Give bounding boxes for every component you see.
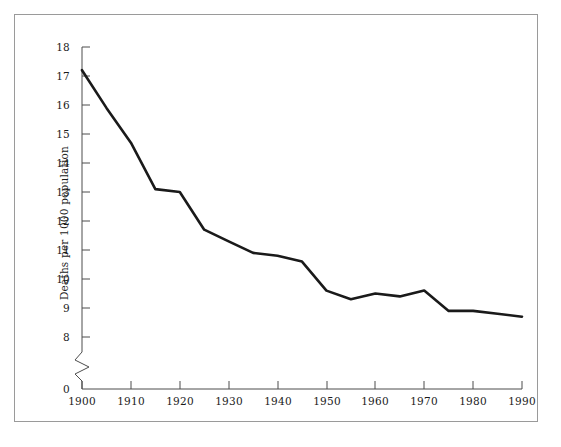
x-tick-label-1960: 1960 — [355, 395, 395, 407]
x-tick-label-1990: 1990 — [502, 395, 542, 407]
x-tick-label-1920: 1920 — [160, 395, 200, 407]
axis-break-zigzag — [75, 352, 89, 381]
y-tick-label-17: 17 — [44, 70, 70, 82]
x-tick-label-1900: 1900 — [62, 395, 102, 407]
line-chart-plot — [0, 0, 561, 447]
y-tick-label-10: 10 — [44, 273, 70, 285]
x-tick-label-1970: 1970 — [404, 395, 444, 407]
x-tick-label-1930: 1930 — [209, 395, 249, 407]
y-axis-ticks — [82, 47, 90, 337]
x-tick-label-1950: 1950 — [307, 395, 347, 407]
y-tick-label-0: 0 — [44, 383, 70, 395]
y-tick-label-11: 11 — [44, 244, 70, 256]
axis-group — [75, 47, 522, 389]
y-tick-label-14: 14 — [44, 157, 70, 169]
y-tick-label-16: 16 — [44, 99, 70, 111]
y-tick-label-9: 9 — [44, 302, 70, 314]
y-tick-label-13: 13 — [44, 186, 70, 198]
data-series-line — [82, 70, 522, 317]
y-tick-label-8: 8 — [44, 331, 70, 343]
x-tick-label-1910: 1910 — [111, 395, 151, 407]
figure-container: Deaths per 1000 population 18 17 16 15 1… — [0, 0, 561, 447]
y-tick-label-12: 12 — [44, 215, 70, 227]
y-tick-label-18: 18 — [44, 41, 70, 53]
x-tick-label-1940: 1940 — [258, 395, 298, 407]
x-axis-ticks — [82, 381, 522, 389]
x-tick-label-1980: 1980 — [453, 395, 493, 407]
y-tick-label-15: 15 — [44, 128, 70, 140]
